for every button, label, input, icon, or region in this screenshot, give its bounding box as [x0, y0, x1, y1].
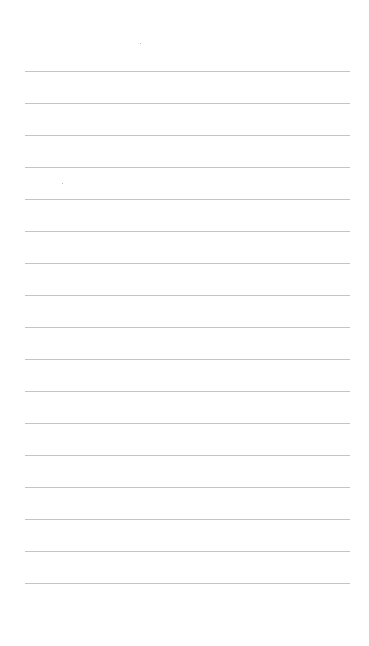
ruled-line	[25, 359, 350, 360]
ruled-line	[25, 231, 350, 232]
ruled-line	[25, 423, 350, 424]
ruled-line	[25, 551, 350, 552]
paper-speck	[140, 43, 141, 44]
ruled-line	[25, 487, 350, 488]
ruled-line	[25, 103, 350, 104]
ruled-line	[25, 71, 350, 72]
ruled-line	[25, 199, 350, 200]
ruled-line	[25, 327, 350, 328]
lined-paper	[0, 0, 369, 646]
ruled-line	[25, 135, 350, 136]
ruled-line	[25, 167, 350, 168]
ruled-line	[25, 391, 350, 392]
ruled-line	[25, 295, 350, 296]
ruled-line	[25, 583, 350, 584]
ruled-line	[25, 263, 350, 264]
paper-speck	[62, 183, 63, 184]
ruled-line	[25, 455, 350, 456]
ruled-line	[25, 519, 350, 520]
